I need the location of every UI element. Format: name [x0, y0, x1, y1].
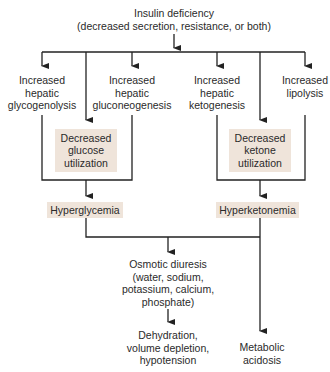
node-line: Dehydration, [127, 329, 209, 342]
node-line: lipolysis [282, 87, 328, 100]
node-increased-hepatic-ketogenesis: Increased hepatic ketogenesis [189, 74, 245, 112]
box-hyperketonemia: Hyperketonemia [216, 202, 299, 218]
box-decreased-ketone-utilization: Decreased ketone utilization [229, 129, 291, 172]
node-line: hepatic [93, 87, 172, 100]
node-line: phosphate) [122, 296, 214, 309]
box-line: ketone [244, 144, 276, 157]
node-increased-lipolysis: Increased lipolysis [282, 74, 328, 99]
node-line: volume depletion, [127, 342, 209, 355]
box-line: utilization [64, 157, 108, 170]
node-increased-hepatic-gluconeogenesis: Increased hepatic gluconeogenesis [93, 74, 172, 112]
node-line: hepatic [189, 87, 245, 100]
node-increased-hepatic-glycogenolysis: Increased hepatic glycogenolysis [8, 74, 76, 112]
node-line: Increased [282, 74, 328, 87]
node-line: gluconeogenesis [93, 99, 172, 112]
node-dehydration: Dehydration, volume depletion, hypotensi… [127, 329, 209, 367]
box-label: Hyperglycemia [50, 204, 119, 217]
node-osmotic-diuresis: Osmotic diuresis (water, sodium, potassi… [122, 258, 214, 308]
node-line: potassium, calcium, [122, 283, 214, 296]
node-line: Increased [189, 74, 245, 87]
node-line: Osmotic diuresis [122, 258, 214, 271]
node-line: ketogenesis [189, 99, 245, 112]
connector-lines [0, 0, 330, 372]
node-line: Increased [93, 74, 172, 87]
node-line: acidosis [240, 354, 285, 367]
node-line: Metabolic [240, 341, 285, 354]
box-line: Decreased [235, 132, 286, 145]
node-metabolic-acidosis: Metabolic acidosis [240, 341, 285, 366]
box-line: glucose [68, 144, 104, 157]
box-label: Hyperketonemia [219, 204, 295, 217]
root-line-2: (decreased secretion, resistance, or bot… [77, 20, 271, 33]
node-line: hepatic [8, 87, 76, 100]
root-line-1: Insulin deficiency [77, 7, 271, 20]
box-line: Decreased [61, 132, 112, 145]
node-line: hypotension [127, 354, 209, 367]
root-insulin-deficiency: Insulin deficiency (decreased secretion,… [77, 7, 271, 32]
insulin-deficiency-flowchart: Insulin deficiency (decreased secretion,… [0, 0, 330, 372]
box-line: utilization [238, 157, 282, 170]
node-line: glycogenolysis [8, 99, 76, 112]
node-line: (water, sodium, [122, 271, 214, 284]
node-line: Increased [8, 74, 76, 87]
box-decreased-glucose-utilization: Decreased glucose utilization [55, 129, 117, 172]
box-hyperglycemia: Hyperglycemia [47, 202, 123, 218]
